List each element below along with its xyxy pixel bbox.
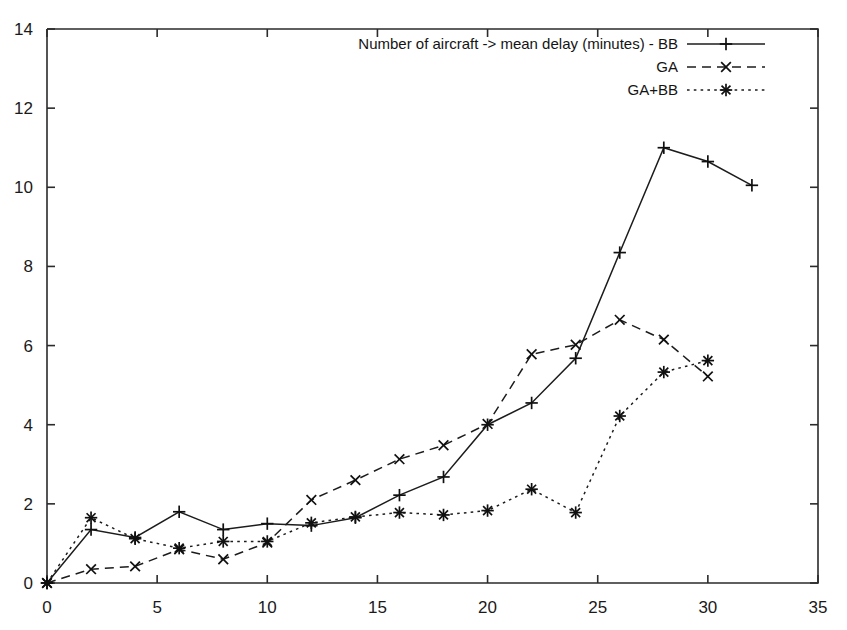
- series-markers-0: [41, 142, 758, 590]
- series-markers-2: [41, 354, 714, 589]
- series-ga: [42, 315, 713, 588]
- chart-legend: Number of aircraft -> mean delay (minute…: [358, 35, 765, 98]
- y-axis: 02468101214: [14, 20, 818, 593]
- x-tick-label: 30: [698, 598, 717, 617]
- x-axis: 05101520253035: [42, 29, 827, 617]
- y-tick-label: 2: [24, 495, 33, 514]
- legend-item-ga-bb: GA+BB: [628, 81, 765, 98]
- y-tick-label: 4: [24, 416, 33, 435]
- legend-label: GA+BB: [628, 81, 678, 98]
- y-tick-label: 0: [24, 574, 33, 593]
- series-markers-1: [42, 315, 713, 588]
- legend-label: GA: [656, 58, 678, 75]
- x-tick-label: 20: [478, 598, 497, 617]
- axis-border: [47, 29, 818, 583]
- y-tick-label: 14: [14, 20, 33, 39]
- series-bb: [41, 142, 758, 590]
- legend-item-bb: Number of aircraft -> mean delay (minute…: [358, 35, 765, 52]
- x-tick-label: 35: [809, 598, 828, 617]
- x-tick-label: 5: [152, 598, 161, 617]
- x-tick-label: 15: [368, 598, 387, 617]
- x-tick-label: 0: [42, 598, 51, 617]
- series-path-1: [47, 320, 708, 583]
- x-tick-label: 10: [258, 598, 277, 617]
- chart-figure: 0510152025303502468101214Number of aircr…: [0, 0, 847, 630]
- y-tick-label: 8: [24, 257, 33, 276]
- line-chart: 0510152025303502468101214Number of aircr…: [0, 0, 847, 630]
- x-tick-label: 25: [588, 598, 607, 617]
- legend-item-ga: GA: [656, 58, 765, 75]
- y-tick-label: 10: [14, 178, 33, 197]
- plot-frame: [47, 29, 818, 583]
- legend-label: Number of aircraft -> mean delay (minute…: [358, 35, 678, 52]
- y-tick-label: 6: [24, 337, 33, 356]
- series-path-2: [47, 361, 708, 583]
- series-ga-bb: [41, 354, 714, 589]
- y-tick-label: 12: [14, 99, 33, 118]
